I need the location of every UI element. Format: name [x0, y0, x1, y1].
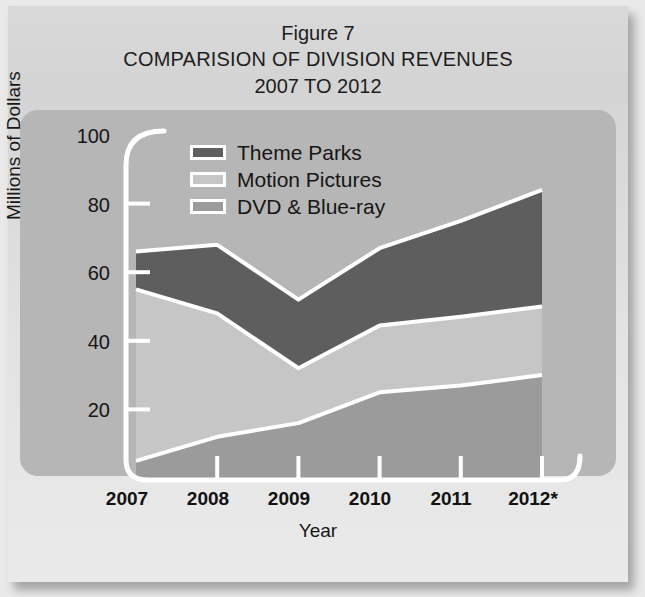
chart-legend: Theme Parks Motion Pictures DVD & Blue-r…: [190, 139, 385, 220]
x-tick-label-2010: 2010: [325, 488, 415, 510]
legend-item-theme-parks[interactable]: Theme Parks: [190, 139, 385, 166]
legend-item-dvd-blueray[interactable]: DVD & Blue-ray: [190, 193, 385, 220]
figure-card: Figure 7 COMPARISION OF DIVISION REVENUE…: [8, 6, 628, 582]
legend-item-motion-pictures[interactable]: Motion Pictures: [190, 166, 385, 193]
cropped-header-sliver: [0, 0, 645, 2]
x-tick-label-2007: 2007: [82, 488, 172, 510]
legend-label-theme-parks: Theme Parks: [237, 141, 362, 165]
legend-label-dvd-blueray: DVD & Blue-ray: [237, 195, 385, 219]
legend-label-motion-pictures: Motion Pictures: [237, 168, 382, 192]
legend-swatch-motion-pictures-icon: [190, 172, 226, 187]
x-tick-label-2011: 2011: [406, 488, 496, 510]
x-tick-label-2008: 2008: [163, 488, 253, 510]
x-tick-label-2012: 2012*: [488, 488, 578, 510]
x-axis-title: Year: [8, 520, 628, 542]
x-tick-label-2009: 2009: [244, 488, 334, 510]
legend-swatch-theme-parks-icon: [190, 145, 226, 160]
legend-swatch-dvd-blueray-icon: [190, 199, 226, 214]
